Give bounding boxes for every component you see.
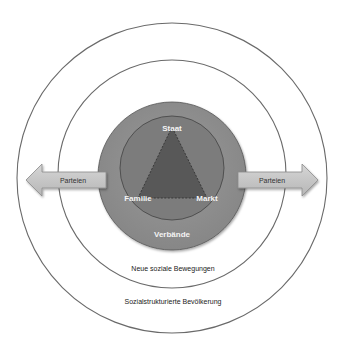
right-arrow-label: Parteien [259, 177, 285, 184]
vertex-label-staat: Staat [162, 124, 182, 133]
vertex-label-markt: Markt [196, 194, 218, 203]
political-system-diagram: Parteien Parteien Staat Familie Markt Ve… [0, 0, 344, 359]
ring-label-sozialstrukturierte-bevoelkerung: Sozialstrukturierte Bevölkerung [125, 298, 222, 306]
ring-label-verbaende: Verbände [154, 230, 191, 239]
left-arrow-label: Parteien [60, 177, 86, 184]
ring-label-neue-soziale-bewegungen: Neue soziale Bewegungen [131, 265, 214, 273]
vertex-label-familie: Familie [124, 194, 152, 203]
